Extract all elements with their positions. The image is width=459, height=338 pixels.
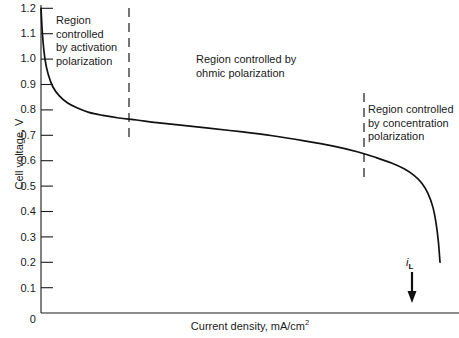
- limiting-current-subscript: L: [408, 262, 413, 271]
- x-axis-title-exponent: 2: [305, 318, 309, 327]
- y-tick-label-0.3: 0.3: [10, 231, 36, 243]
- limiting-current-arrow: [408, 272, 417, 303]
- y-axis-ticks: [41, 8, 53, 287]
- y-tick-label-0.9: 0.9: [10, 78, 36, 90]
- y-tick-label-1.1: 1.1: [10, 27, 36, 39]
- y-tick-label-0.1: 0.1: [10, 282, 36, 294]
- y-axis-title: Cell voltage, V: [13, 99, 25, 209]
- limiting-current-label: iL: [406, 256, 413, 268]
- y-tick-label-0: 0: [10, 313, 36, 325]
- annotation-concentration-region: Region controlled by concentration polar…: [368, 103, 459, 144]
- annotation-ohmic-region: Region controlled by ohmic polarization: [196, 53, 346, 80]
- y-tick-label-1.0: 1.0: [10, 52, 36, 64]
- polarization-curve-figure: 1.2 1.1 1.0 0.9 0.8 0.7 0.6 0.5 0.4 0.3 …: [0, 0, 459, 338]
- x-axis-title-text: Current density, mA/cm: [191, 320, 305, 332]
- x-axis-title: Current density, mA/cm2: [41, 320, 459, 332]
- y-tick-label-0.2: 0.2: [10, 256, 36, 268]
- y-tick-label-1.2: 1.2: [10, 2, 36, 14]
- annotation-activation-region: Region controlled by activation polariza…: [56, 14, 130, 68]
